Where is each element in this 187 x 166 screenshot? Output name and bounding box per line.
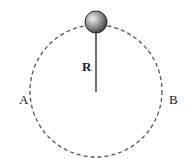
ball [85, 11, 107, 33]
point-a-label: A [19, 92, 29, 107]
radius-label: R [82, 59, 92, 74]
point-b-label: B [169, 92, 178, 107]
vertical-circle-diagram: R A B [0, 0, 187, 166]
